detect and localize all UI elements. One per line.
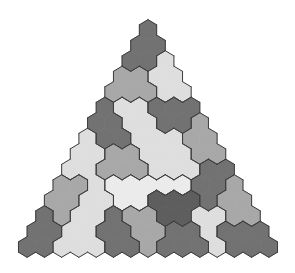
hex-puzzle-board [0, 0, 295, 273]
hex-cells [18, 20, 277, 258]
